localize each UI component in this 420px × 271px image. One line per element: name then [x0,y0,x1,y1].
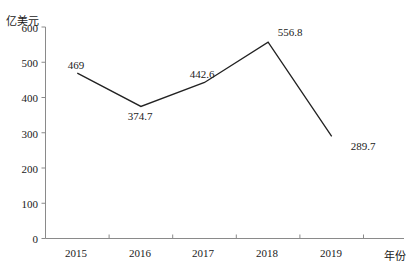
series-line [77,42,331,136]
y-axis-ticks [42,27,46,239]
chart-canvas [0,0,420,271]
axis-group [42,27,405,239]
line-chart: 亿美元 600 500 400 300 200 100 0 2015 2016 … [0,0,420,271]
x-axis-ticks [109,235,363,239]
